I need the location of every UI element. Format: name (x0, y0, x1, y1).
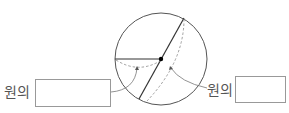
radius-dashed-arc (116, 60, 160, 67)
diameter-dashed-arc (147, 19, 184, 101)
right-leader-line (171, 68, 207, 88)
left-answer-box[interactable] (35, 79, 111, 107)
left-arrowhead-icon (135, 66, 139, 70)
right-answer-box[interactable] (235, 76, 286, 103)
left-leader-line (111, 68, 137, 92)
center-dot (159, 57, 163, 61)
left-label: 원의 (4, 84, 30, 100)
right-label: 원의 (207, 82, 233, 98)
